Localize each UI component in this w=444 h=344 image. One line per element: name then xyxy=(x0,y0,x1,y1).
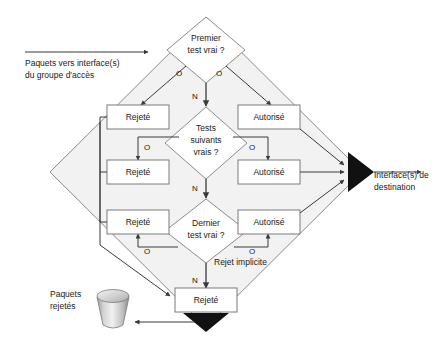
merge-triangle-permit xyxy=(348,152,374,192)
destination-label-line2: destination xyxy=(374,182,415,192)
decision-first-test-line1: Premier xyxy=(191,33,221,43)
packets-in-label-line2: du groupe d'accès xyxy=(25,70,94,80)
box-allow-2-label: Autorisé xyxy=(253,167,284,177)
decision-next-tests-line3: vrais ? xyxy=(193,147,218,157)
box-reject-2-label: Rejeté xyxy=(126,167,151,177)
box-reject-final-label: Rejeté xyxy=(194,295,219,305)
branch-label-first-no: N xyxy=(192,92,198,101)
rejected-packets-label-line2: rejetés xyxy=(50,301,76,311)
branch-label-first-yes-right: O xyxy=(216,69,222,78)
decision-last-test-line1: Dernier xyxy=(192,218,220,228)
decision-next-tests-line1: Tests xyxy=(196,123,216,133)
decision-last-test-line2: test vrai ? xyxy=(188,230,225,240)
box-allow-3-label: Autorisé xyxy=(253,217,284,227)
branch-label-first-yes-left: O xyxy=(176,69,182,78)
branch-label-next-yes-right: O xyxy=(249,143,255,152)
box-reject-3-label: Rejeté xyxy=(126,217,151,227)
rejected-packets-label-line1: Paquets xyxy=(50,289,81,299)
branch-label-next-yes-left: O xyxy=(144,143,150,152)
packets-in-label-line1: Paquets vers interface(s) xyxy=(25,58,120,68)
box-reject-1-label: Rejeté xyxy=(126,112,151,122)
diagram-canvas: Premier test vrai ? O O N Tests suivants… xyxy=(0,0,444,344)
box-allow-1-label: Autorisé xyxy=(253,112,284,122)
decision-next-tests-line2: suivants xyxy=(190,135,221,145)
decision-first-test-line2: test vrai ? xyxy=(188,45,225,55)
branch-label-last-no: N xyxy=(192,276,198,285)
branch-label-last-yes-right: O xyxy=(249,247,255,256)
branch-label-last-yes-left: O xyxy=(144,247,150,256)
branch-label-next-no: N xyxy=(192,184,198,193)
trash-bin-icon xyxy=(97,290,129,329)
destination-label-line1: Interface(s) de xyxy=(374,170,429,180)
annotation-implicit-deny: Rejet implicite xyxy=(214,257,267,267)
access-list-flowchart: Premier test vrai ? O O N Tests suivants… xyxy=(0,0,444,344)
